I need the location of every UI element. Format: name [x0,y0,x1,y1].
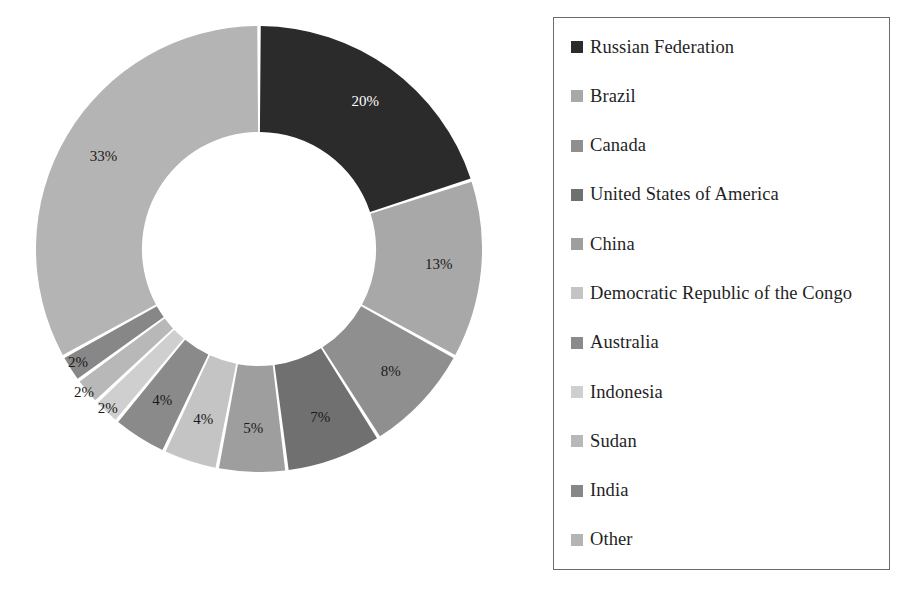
legend-item[interactable]: Democratic Republic of the Congo [554,278,889,308]
legend-item-label: China [590,234,635,255]
legend-swatch-icon [571,140,583,152]
pie-slice-label: 4% [152,392,172,408]
pie-slice-label: 7% [310,409,330,425]
legend-item[interactable]: India [554,476,889,506]
legend-item[interactable]: Canada [554,131,889,161]
pie-slice-label: 2% [74,384,94,400]
chart-area: 20%13%8%7%5%4%4%2%2%2%33% [0,0,540,600]
legend: Russian FederationBrazilCanadaUnited Sta… [553,17,890,570]
legend-item[interactable]: Russian Federation [554,32,889,62]
pie-slice[interactable] [260,26,471,212]
legend-item-label: Brazil [590,86,636,107]
pie-slice-label: 8% [381,363,401,379]
pie-slice[interactable] [36,26,258,355]
legend-item[interactable]: United States of America [554,180,889,210]
legend-item[interactable]: Sudan [554,426,889,456]
legend-swatch-icon [571,287,583,299]
pie-slice-label: 20% [351,93,379,109]
legend-swatch-icon [571,386,583,398]
pie-slice-label: 5% [243,420,263,436]
legend-swatch-icon [571,337,583,349]
pie-slice-label: 33% [90,148,118,164]
legend-item[interactable]: Brazil [554,81,889,111]
legend-item-label: Other [590,529,633,550]
legend-item-label: Indonesia [590,382,663,403]
legend-item-label: Australia [590,332,659,353]
pie-slice-label: 2% [68,354,88,370]
legend-item-label: Democratic Republic of the Congo [590,283,852,304]
legend-item-label: United States of America [590,184,779,205]
pie-slice-label: 2% [98,400,118,416]
legend-swatch-icon [571,534,583,546]
legend-item[interactable]: Other [554,525,889,555]
legend-swatch-icon [571,189,583,201]
legend-item-label: Sudan [590,431,637,452]
donut-chart: 20%13%8%7%5%4%4%2%2%2%33% [36,26,482,472]
legend-item[interactable]: Australia [554,328,889,358]
legend-item[interactable]: Indonesia [554,377,889,407]
legend-item[interactable]: China [554,229,889,259]
legend-swatch-icon [571,238,583,250]
pie-slice-label: 4% [193,411,213,427]
legend-item-label: India [590,480,629,501]
legend-swatch-icon [571,90,583,102]
legend-swatch-icon [571,485,583,497]
legend-swatch-icon [571,41,583,53]
pie-slice-label: 13% [425,256,453,272]
legend-swatch-icon [571,435,583,447]
legend-item-label: Canada [590,135,646,156]
legend-item-label: Russian Federation [590,37,734,58]
